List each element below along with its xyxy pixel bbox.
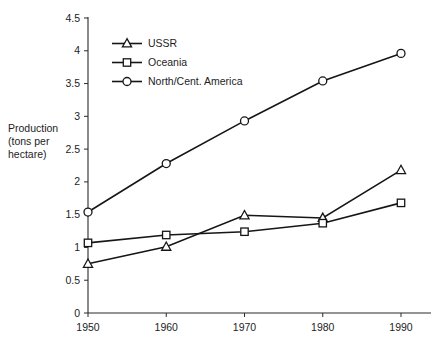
series-markers-north-cent-america: [84, 49, 405, 216]
x-tick-label: 1970: [233, 321, 257, 333]
y-tick-label: 3: [74, 110, 80, 122]
data-point-oceania-1980: [319, 219, 326, 226]
y-axis-title-line-3: hectare): [8, 148, 47, 160]
legend-label-north-cent-america: North/Cent. America: [148, 75, 243, 87]
series-line-oceania: [88, 203, 401, 243]
data-point-north-cent-america-1980: [319, 77, 327, 85]
data-point-oceania-1990: [397, 199, 404, 206]
y-tick-label: 2: [74, 175, 80, 187]
data-point-oceania-1960: [163, 231, 170, 238]
series-line-north-cent-america: [88, 53, 401, 212]
legend-marker-circle: [123, 78, 131, 86]
data-point-north-cent-america-1960: [162, 160, 170, 168]
y-tick-label: 3.5: [65, 77, 80, 89]
data-point-north-cent-america-1990: [397, 49, 405, 57]
legend-sample-north-cent-america: [112, 78, 142, 86]
y-tick-label: 0: [74, 307, 80, 319]
y-axis-title-line-2: (tons per: [8, 135, 50, 147]
x-tick-label: 1990: [389, 321, 413, 333]
legend-entry-oceania: Oceania: [148, 56, 187, 68]
y-tick-label: 4.5: [65, 12, 80, 24]
y-axis-ticks: 00.511.522.533.544.5: [65, 12, 88, 319]
y-tick-label: 4: [74, 44, 80, 56]
legend-sample-oceania: [112, 59, 142, 66]
y-tick-label: 2.5: [65, 143, 80, 155]
x-tick-label: 1980: [311, 321, 335, 333]
y-axis-title: Production (tons per hectare): [8, 122, 58, 160]
legend-label-oceania: Oceania: [148, 56, 187, 68]
data-point-ussr-1990: [396, 165, 405, 173]
y-tick-label: 1.5: [65, 208, 80, 220]
x-tick-label: 1960: [155, 321, 179, 333]
legend-marker-group: [112, 39, 142, 86]
legend-entry-ussr: USSR: [148, 37, 178, 49]
legend-sample-ussr: [112, 39, 142, 47]
legend-marker-square: [123, 59, 130, 66]
series-markers-oceania: [84, 199, 404, 246]
x-tick-label: 1950: [76, 321, 100, 333]
y-tick-label: 0.5: [65, 274, 80, 286]
data-point-oceania-1970: [241, 228, 248, 235]
plot-area: 00.511.522.533.544.5 1950196019701980199…: [0, 0, 441, 351]
series-markers-ussr: [83, 165, 405, 267]
x-axis-ticks: 19501960197019801990: [76, 313, 413, 333]
data-point-north-cent-america-1970: [241, 117, 249, 125]
legend-entry-north-cent-america: North/Cent. America: [148, 75, 243, 87]
chart-legend: USSR Oceania North/Cent. America: [112, 37, 243, 87]
legend-label-ussr: USSR: [148, 37, 178, 49]
y-axis-title-line-1: Production: [8, 122, 58, 134]
data-point-north-cent-america-1950: [84, 208, 92, 216]
data-point-oceania-1950: [84, 239, 91, 246]
y-tick-label: 1: [74, 241, 80, 253]
line-chart: 00.511.522.533.544.5 1950196019701980199…: [0, 0, 441, 351]
